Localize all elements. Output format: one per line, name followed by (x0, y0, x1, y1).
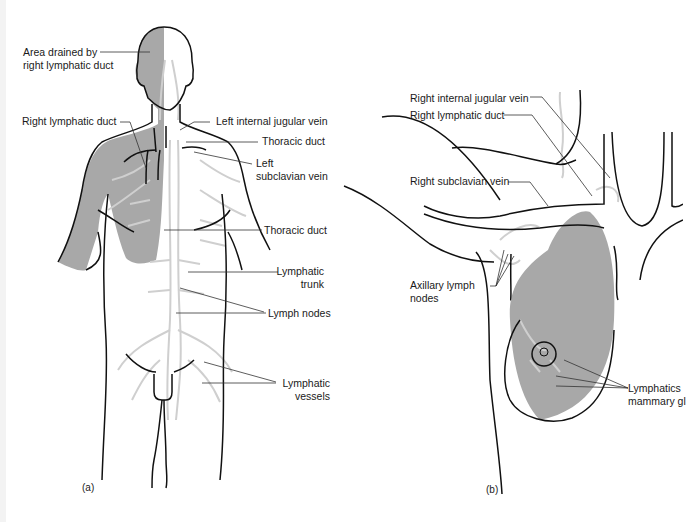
label-line: right lymphatic duct (23, 59, 113, 72)
label-line: Left (256, 157, 328, 170)
label-left-internal-jugular-vein: Left internal jugular vein (216, 115, 328, 128)
breast-lymphatics-illustration (344, 90, 683, 494)
panel-b-tag: (b) (486, 484, 498, 495)
label-lymphatic-trunk: Lymphatic trunk (272, 265, 324, 290)
label-line: Lymphatic (278, 377, 330, 390)
label-line: trunk (272, 278, 324, 291)
label-line: nodes (410, 292, 475, 305)
label-right-internal-jugular-vein: Right internal jugular vein (410, 92, 528, 105)
label-line: Area drained by (23, 46, 113, 59)
label-area-drained: Area drained by right lymphatic duct (23, 46, 113, 71)
label-mammary-lymphatics: Lymphatics mammary gl (628, 382, 686, 407)
label-line: Lymphatics (628, 382, 686, 395)
label-lymphatic-vessels: Lymphatic vessels (278, 377, 330, 402)
label-thoracic-duct-lower: Thoracic duct (264, 224, 327, 237)
label-right-lymphatic-duct-b: Right lymphatic duct (410, 109, 505, 122)
label-lymph-nodes: Lymph nodes (268, 307, 331, 320)
label-axillary-lymph-nodes: Axillary lymph nodes (410, 279, 475, 304)
label-thoracic-duct-upper: Thoracic duct (262, 135, 325, 148)
label-right-lymphatic-duct: Right lymphatic duct (22, 115, 117, 128)
label-line: Axillary lymph (410, 279, 475, 292)
label-line: vessels (278, 390, 330, 403)
panel-a-tag: (a) (82, 482, 94, 493)
label-left-subclavian-vein: Left subclavian vein (256, 157, 328, 182)
label-right-subclavian-vein: Right subclavian vein (410, 175, 509, 188)
label-line: subclavian vein (256, 170, 328, 183)
label-line: mammary gl (628, 395, 686, 408)
label-line: Lymphatic (272, 265, 324, 278)
